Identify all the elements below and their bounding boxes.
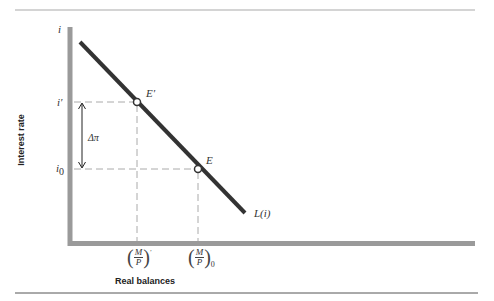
tick-mp-0: ( M P ) 0 xyxy=(188,247,215,267)
liquidity-curve xyxy=(80,42,245,213)
tick-i0-sub: 0 xyxy=(59,166,64,177)
point-e xyxy=(195,166,202,173)
tick-i0: i0 xyxy=(56,163,64,174)
x-axis-title: Real balances xyxy=(115,276,175,286)
frac-den: P xyxy=(136,258,142,267)
frac-num: M xyxy=(134,248,144,258)
frac-num: M xyxy=(195,248,205,258)
label-e: E xyxy=(206,155,213,166)
y-axis-title: Interest rate xyxy=(16,90,26,190)
frac-sub: 0 xyxy=(211,260,215,269)
point-e-prime xyxy=(134,99,141,106)
diagram-canvas xyxy=(0,0,494,301)
label-curve: L(i) xyxy=(254,208,271,219)
guide-lines xyxy=(74,102,198,241)
frac-den: P xyxy=(197,258,203,267)
delta-pi-arrow xyxy=(79,103,86,168)
frac-sup: ′ xyxy=(150,248,152,256)
y-axis-symbol: i xyxy=(58,24,61,35)
tick-mp-prime: ( M P ) ′ xyxy=(127,247,151,267)
label-delta-pi: Δπ xyxy=(88,133,99,143)
tick-i-prime: i′ xyxy=(57,97,62,108)
label-e-prime: E′ xyxy=(146,88,155,99)
